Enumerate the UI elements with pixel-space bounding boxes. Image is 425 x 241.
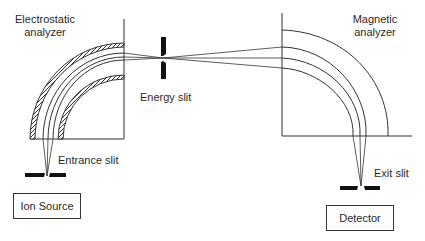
label-electrostatic-line1: Electrostatic — [5, 13, 85, 26]
exit-slit — [340, 186, 380, 190]
drift-beams — [124, 47, 282, 68]
ion-source-box: Ion Source — [13, 193, 81, 219]
ma-beam-1 — [282, 47, 366, 136]
label-electrostatic-analyzer: Electrostatic analyzer — [5, 13, 85, 39]
ma-beam-3 — [282, 68, 353, 136]
label-magnetic-line2: analyzer — [340, 26, 410, 39]
exit-beams — [353, 136, 366, 186]
label-magnetic-line1: Magnetic — [340, 13, 410, 26]
label-magnetic-analyzer: Magnetic analyzer — [340, 13, 410, 39]
detector-box: Detector — [326, 205, 394, 231]
label-exit-slit: Exit slit — [374, 167, 409, 180]
ion-source-label: Ion Source — [20, 200, 73, 212]
label-entrance-slit: Entrance slit — [58, 154, 119, 167]
entrance-beams — [43, 139, 53, 176]
label-energy-slit: Energy slit — [140, 91, 191, 104]
entrance-slit — [25, 173, 66, 177]
esa-inner-plate — [58, 75, 124, 139]
label-electrostatic-line2: analyzer — [5, 26, 85, 39]
detector-label: Detector — [339, 212, 381, 224]
ma-outer-boundary — [282, 30, 388, 136]
esa-beam-1 — [43, 53, 124, 139]
